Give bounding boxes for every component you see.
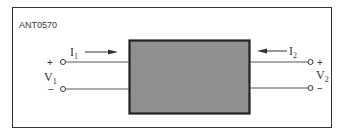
v1-plus-sign: + <box>47 57 53 68</box>
port2-plus-terminal-icon <box>308 60 313 65</box>
port2-minus-terminal-icon <box>308 86 313 91</box>
v2-label: V2 <box>316 68 329 84</box>
port1-plus-terminal-icon <box>61 60 66 65</box>
v2-minus-sign: − <box>317 83 323 94</box>
i1-arrow-head-icon <box>108 50 118 55</box>
two-port-diagram: I1 + V1 − I2 + V2 − <box>0 0 348 135</box>
two-port-network-box <box>130 41 250 114</box>
i1-label: I1 <box>70 45 78 61</box>
i2-label: I2 <box>289 44 297 60</box>
port1-minus-terminal-icon <box>61 87 66 92</box>
v1-minus-sign: − <box>48 84 54 95</box>
v2-plus-sign: + <box>317 57 323 68</box>
